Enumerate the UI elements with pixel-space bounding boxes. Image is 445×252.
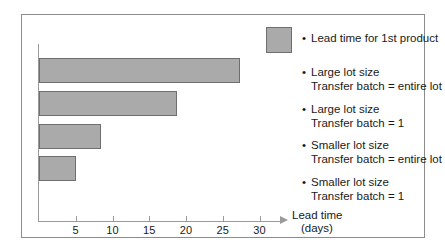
bullet-icon: • [302, 176, 311, 190]
legend-item-line2: Transfer batch = 1 [302, 190, 430, 204]
legend-swatch-row: •Lead time for 1st product [266, 27, 426, 57]
x-axis-tick-label: 5 [64, 224, 88, 236]
legend-item-large-lot-entire-lot: •Large lot size Transfer batch = entire … [302, 66, 430, 93]
x-axis-tick-label: 10 [101, 224, 125, 236]
x-axis-tick [149, 216, 150, 222]
legend-swatch-label-text: Lead time for 1st product [311, 32, 438, 44]
legend-item-line2: Transfer batch = 1 [302, 117, 430, 131]
chart-legend: •Lead time for 1st product •Large lot si… [262, 15, 426, 239]
legend-swatch-label: •Lead time for 1st product [302, 32, 438, 44]
bullet-icon: • [302, 32, 311, 44]
legend-item-line1: Large lot size [311, 103, 379, 115]
x-axis-tick [186, 216, 187, 222]
bar-smaller-lot-entire-lot [39, 124, 101, 149]
x-axis-tick-label: 25 [211, 224, 235, 236]
x-axis-tick [260, 216, 261, 222]
figure-frame: 51015202530 Lead time (days) •Lead time … [21, 14, 425, 238]
legend-item-line2: Transfer batch = entire lot [302, 80, 430, 94]
legend-item-line1: Large lot size [311, 66, 379, 78]
bar-large-lot-batch-1 [39, 91, 177, 116]
bar-smaller-lot-batch-1 [39, 156, 76, 181]
bar-chart-plot-area: 51015202530 Lead time (days) [22, 15, 302, 239]
bullet-icon: • [302, 66, 311, 80]
bullet-icon: • [302, 103, 311, 117]
x-axis-tick [76, 216, 77, 222]
legend-item-smaller-lot-batch-1: •Smaller lot size Transfer batch = 1 [302, 176, 430, 203]
x-axis-tick [113, 216, 114, 222]
x-axis-tick-label: 20 [174, 224, 198, 236]
x-axis-line [38, 221, 282, 222]
bar-large-lot-entire-lot [39, 58, 240, 83]
legend-item-line1: Smaller lot size [311, 139, 389, 151]
legend-item-smaller-lot-entire-lot: •Smaller lot size Transfer batch = entir… [302, 139, 430, 166]
legend-color-swatch [266, 27, 292, 53]
legend-item-large-lot-batch-1: •Large lot size Transfer batch = 1 [302, 103, 430, 130]
x-axis-tick [223, 216, 224, 222]
legend-item-line1: Smaller lot size [311, 176, 389, 188]
bullet-icon: • [302, 139, 311, 153]
x-axis-tick-label: 15 [137, 224, 161, 236]
figure-container: 51015202530 Lead time (days) •Lead time … [0, 0, 445, 252]
legend-item-line2: Transfer batch = entire lot [302, 153, 430, 167]
